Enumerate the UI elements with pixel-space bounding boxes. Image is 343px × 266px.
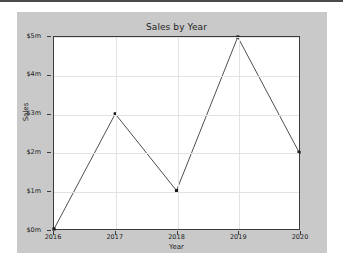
series-line xyxy=(54,37,299,229)
y-tick-label: $5m xyxy=(26,33,41,40)
y-tick-label: $0m xyxy=(26,227,41,234)
gridline-horizontal xyxy=(54,153,299,154)
gridline-horizontal xyxy=(54,115,299,116)
gridline-horizontal xyxy=(54,76,299,77)
plot-area xyxy=(53,36,300,230)
gridline-vertical xyxy=(239,37,240,229)
x-tick-mark xyxy=(177,231,178,235)
gridline-horizontal xyxy=(54,37,299,38)
y-tick-mark xyxy=(47,114,51,115)
x-axis-title: Year xyxy=(53,243,300,251)
y-tick-mark xyxy=(47,75,51,76)
y-tick-label: $4m xyxy=(26,71,41,78)
y-tick-label: $2m xyxy=(26,149,41,156)
x-tick-mark xyxy=(115,231,116,235)
y-tick-mark xyxy=(47,152,51,153)
x-tick-mark xyxy=(300,231,301,235)
x-tick-mark xyxy=(53,231,54,235)
page-top-rule xyxy=(0,0,343,2)
line-series xyxy=(54,37,299,229)
y-tick-mark xyxy=(47,230,51,231)
gridline-vertical xyxy=(116,37,117,229)
gridline-vertical xyxy=(178,37,179,229)
y-tick-mark xyxy=(47,36,51,37)
y-axis-title: Sales xyxy=(22,87,30,137)
gridline-horizontal xyxy=(54,192,299,193)
chart-title: Sales by Year xyxy=(53,22,300,32)
x-tick-mark xyxy=(238,231,239,235)
chart-figure: Sales by Year $0m$1m$2m$3m$4m$5m 2016201… xyxy=(17,12,327,253)
y-tick-mark xyxy=(47,191,51,192)
y-tick-label: $1m xyxy=(26,188,41,195)
